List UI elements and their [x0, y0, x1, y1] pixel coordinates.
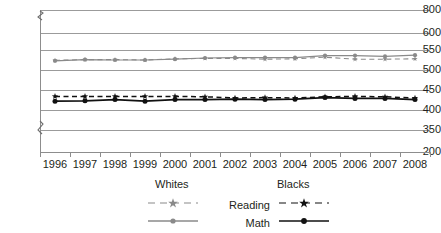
x-tick-label-2008: 2008 [395, 158, 435, 170]
y-tick-label-550: 550 [407, 44, 441, 55]
legend-key-blacks-reading [277, 197, 331, 209]
y-tick-label-350: 350 [407, 124, 441, 135]
x-tick-2001 [190, 152, 191, 157]
x-tick-2005 [310, 152, 311, 157]
y-tick-label-800: 800 [407, 4, 441, 15]
x-tick-2002 [220, 152, 221, 157]
legend-row-label-math: Math [200, 217, 270, 229]
gridline-500 [40, 70, 430, 71]
x-tick-2007 [370, 152, 371, 157]
x-tick-2006 [340, 152, 341, 157]
gridline-800 [40, 10, 430, 11]
gridline-400 [40, 110, 430, 111]
y-tick-label-500: 500 [407, 64, 441, 75]
y-tick-label-450: 450 [407, 84, 441, 95]
y-tick-label-600: 600 [407, 27, 441, 38]
plot-area [40, 10, 430, 152]
x-tick-2000 [160, 152, 161, 157]
x-tick-2003 [250, 152, 251, 157]
x-tick-1997 [70, 152, 71, 157]
chart-legend: Whites Blacks Reading Math [0, 178, 441, 233]
sat-score-trend-chart: 800 600 550 500 450 400 350 200 Whites B… [0, 0, 441, 233]
legend-group-whites: Whites [155, 178, 189, 190]
x-tick-1996 [40, 152, 41, 157]
x-tick-2004 [280, 152, 281, 157]
legend-key-whites-reading [146, 197, 200, 209]
legend-group-blacks: Blacks [277, 178, 309, 190]
gridline-600 [40, 33, 430, 34]
x-tick-1998 [100, 152, 101, 157]
y-tick-label-400: 400 [407, 104, 441, 115]
x-axis-line [40, 152, 430, 153]
axis-break-upper-icon [34, 10, 50, 26]
legend-key-whites-math [146, 215, 200, 227]
gridline-450 [40, 90, 430, 91]
legend-row-label-reading: Reading [200, 199, 270, 211]
legend-key-blacks-math [277, 215, 331, 227]
gridline-550 [40, 50, 430, 51]
gridline-350 [40, 130, 430, 131]
axis-break-lower-icon [34, 119, 50, 135]
x-tick-2008 [400, 152, 401, 157]
x-tick-1999 [130, 152, 131, 157]
x-tick-end [430, 152, 431, 157]
